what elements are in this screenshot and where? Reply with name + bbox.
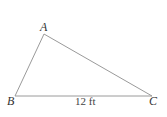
vertex-label-c: C [149, 94, 158, 108]
vertex-label-b: B [7, 94, 15, 108]
triangle-abc [15, 34, 152, 96]
triangle-diagram: A B C 12 ft [0, 0, 167, 117]
vertex-label-a: A [39, 20, 48, 34]
side-bc-length: 12 ft [75, 95, 95, 107]
